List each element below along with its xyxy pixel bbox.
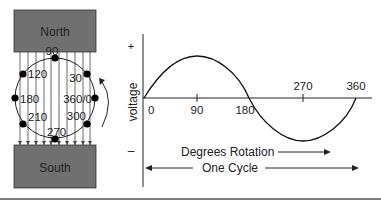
svg-text:120: 120 (28, 68, 47, 80)
cycle-right-arrow-icon (352, 165, 359, 171)
minus-label: – (128, 144, 135, 158)
svg-text:300: 300 (67, 110, 86, 122)
svg-text:360/0: 360/0 (63, 93, 92, 105)
voltage-axis-label: voltage (126, 82, 140, 121)
svg-text:30: 30 (69, 72, 82, 84)
south-label: South (39, 161, 70, 175)
svg-text:180: 180 (20, 93, 39, 105)
rotation-arrow-icon (99, 78, 109, 127)
svg-text:210: 210 (28, 111, 47, 123)
cycle-left-arrow-icon (145, 165, 152, 171)
svg-text:180: 180 (235, 104, 254, 116)
svg-text:360: 360 (346, 80, 365, 92)
svg-text:270: 270 (47, 126, 66, 138)
svg-text:90: 90 (191, 104, 204, 116)
plus-label: + (128, 40, 134, 52)
svg-text:0: 0 (148, 104, 154, 116)
degrees-rotation-label: Degrees Rotation (181, 145, 274, 159)
degrees-arrow-icon (324, 149, 331, 155)
north-label: North (40, 25, 69, 39)
generator-sine-diagram: North South 90 120 30 180 360/0 210 300 … (0, 0, 381, 203)
svg-text:90: 90 (46, 45, 59, 57)
svg-text:270: 270 (293, 80, 312, 92)
one-cycle-label: One Cycle (202, 161, 258, 175)
